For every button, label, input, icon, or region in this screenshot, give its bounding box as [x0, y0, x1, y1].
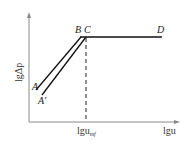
fluidization-diagram: A A' B C D lgΔp lgumf lgu	[0, 0, 186, 147]
x-axis-arrow-icon	[174, 120, 180, 124]
point-c-label: C	[84, 24, 91, 35]
point-a-label: A	[31, 81, 39, 92]
x-axis-label: lgu	[163, 125, 176, 136]
point-d-label: D	[156, 24, 165, 35]
critical-velocity-label: lgumf	[77, 125, 97, 137]
line-a-b	[36, 37, 81, 90]
point-b-label: B	[75, 24, 81, 35]
y-axis-label: lgΔp	[13, 63, 24, 82]
y-axis-arrow-icon	[27, 12, 31, 18]
point-a-prime-label: A'	[37, 95, 47, 106]
line-a-prime-c	[42, 37, 86, 95]
